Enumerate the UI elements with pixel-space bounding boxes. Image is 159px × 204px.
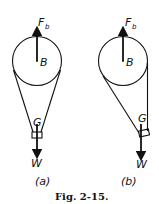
center-point-a: [36, 60, 38, 62]
panel-a: F b B G W (a): [13, 16, 62, 188]
force-label-a: F: [38, 16, 45, 29]
force-subscript-b: b: [132, 23, 137, 31]
panel-label-a: (a): [35, 175, 50, 188]
figure-canvas: F b B G W (a) F b B G W (b) Fig. 2-15.: [0, 0, 159, 204]
center-point-b: [122, 60, 124, 62]
center-label-b: B: [126, 56, 134, 69]
center-label-a: B: [40, 56, 48, 69]
weight-label-b: W: [136, 158, 148, 171]
left-rope-a: [14, 70, 34, 132]
cg-label-b: G: [138, 112, 147, 125]
cg-label-a: G: [33, 116, 42, 129]
force-label-b: F: [125, 16, 132, 29]
force-subscript-a: b: [45, 23, 50, 31]
panel-label-b: (b): [121, 175, 137, 188]
panel-b: F b B G W (b): [99, 16, 150, 188]
right-rope-a: [41, 70, 61, 132]
weight-label-a: W: [31, 157, 43, 170]
figure-caption: Fig. 2-15.: [55, 191, 108, 202]
left-rope-b: [103, 76, 139, 133]
